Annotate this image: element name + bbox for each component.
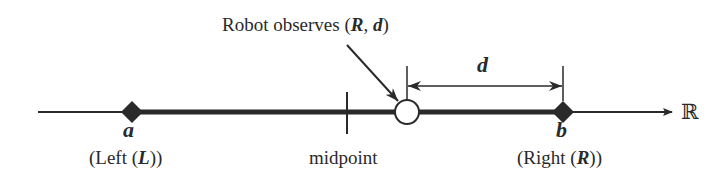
left-caption-suffix: )) [150, 147, 163, 168]
right-caption-prefix: (Right ( [517, 147, 577, 168]
robot-line-diagram: Robot observes (R, d) d ℝ a b (Left (L))… [0, 0, 725, 184]
title-var-r: R [351, 14, 364, 35]
right-caption-suffix: )) [589, 147, 602, 168]
left-caption-var: L [138, 147, 150, 168]
title-suffix: ) [382, 14, 388, 35]
point-a-label: a [123, 117, 134, 143]
left-caption-prefix: (Left ( [89, 147, 138, 168]
point-b-label: b [556, 117, 567, 143]
robot-observation-title: Robot observes (R, d) [222, 14, 389, 36]
robot-position-circle-icon [395, 100, 419, 124]
left-caption: (Left (L)) [89, 147, 162, 169]
pointer-arrow [347, 45, 398, 101]
midpoint-label: midpoint [309, 147, 378, 169]
title-prefix: Robot observes ( [222, 14, 351, 35]
real-numbers-label: ℝ [681, 100, 698, 125]
right-caption-var: R [577, 147, 590, 168]
distance-label: d [477, 52, 488, 78]
title-sep: , [363, 14, 373, 35]
right-caption: (Right (R)) [517, 147, 602, 169]
